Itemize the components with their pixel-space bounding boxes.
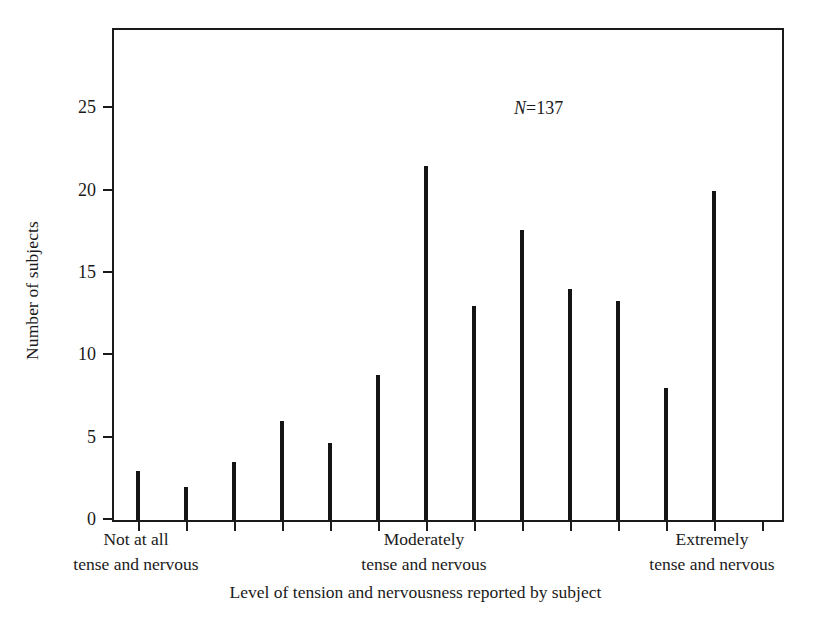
bar (376, 375, 380, 520)
category-label-line-1: Extremely (612, 527, 812, 552)
sample-size-variable: N (514, 98, 526, 118)
plot-area: 0510152025 N=137 (112, 28, 784, 522)
category-label-line-2: tense and nervous (324, 552, 524, 577)
category-label-line-2: tense and nervous (612, 552, 812, 577)
y-axis-title: Number of subjects (22, 181, 43, 401)
y-axis-tick-label: 25 (78, 97, 96, 117)
bar (328, 443, 332, 520)
y-axis-tick: 20 (103, 189, 114, 191)
chart-figure: Number of subjects 0510152025 N=137 Not … (0, 0, 831, 622)
y-axis-tick: 25 (103, 106, 114, 108)
bar (712, 191, 716, 520)
bar (280, 421, 284, 520)
bar (424, 166, 428, 520)
category-label-line-2: tense and nervous (36, 552, 236, 577)
sample-size-value: =137 (526, 98, 563, 118)
y-axis-tick-label: 0 (87, 509, 96, 529)
bar (136, 471, 140, 520)
bar (616, 301, 620, 520)
y-axis-tick-label: 20 (78, 180, 96, 200)
x-axis-category-label: Extremelytense and nervous (612, 527, 812, 577)
bar (664, 388, 668, 520)
x-axis-tick (282, 520, 284, 531)
category-label-line-1: Moderately (324, 527, 524, 552)
y-axis-tick-label: 10 (78, 344, 96, 364)
y-axis-tick: 5 (103, 436, 114, 438)
bar (472, 306, 476, 520)
sample-size-annotation: N=137 (514, 98, 563, 119)
bar (520, 230, 524, 520)
y-axis-tick: 0 (103, 518, 114, 520)
bar (568, 289, 572, 520)
y-axis-tick-label: 5 (87, 427, 96, 447)
category-label-line-1: Not at all (36, 527, 236, 552)
y-axis-tick-label: 15 (78, 262, 96, 282)
x-axis-category-label: Not at alltense and nervous (36, 527, 236, 577)
x-axis-tick (570, 520, 572, 531)
y-axis-tick: 15 (103, 271, 114, 273)
y-axis-tick: 10 (103, 353, 114, 355)
bar (232, 462, 236, 520)
x-axis-category-label: Moderatelytense and nervous (324, 527, 524, 577)
x-axis-title: Level of tension and nervousness reporte… (0, 582, 831, 603)
bar (184, 487, 188, 520)
